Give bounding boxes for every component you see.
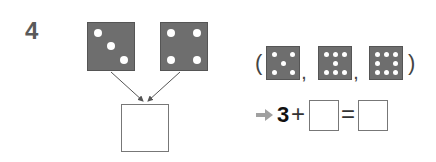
die-dot: [342, 52, 347, 57]
open-parenthesis: (: [255, 50, 262, 76]
die-dot: [375, 61, 380, 66]
second-addend-box[interactable]: [309, 100, 339, 131]
equals-sign: =: [341, 100, 355, 128]
choice-die-eight[interactable]: [369, 46, 403, 80]
converging-arrows-icon: [0, 0, 436, 162]
separator: ,: [302, 66, 306, 82]
die-dot: [272, 70, 277, 75]
die-dot: [375, 70, 380, 75]
sum-answer-box[interactable]: [121, 104, 169, 152]
die-dot: [393, 70, 398, 75]
die-dot: [375, 52, 380, 57]
close-parenthesis: ): [408, 50, 415, 76]
die-dot: [333, 61, 338, 66]
choice-die-seven[interactable]: [318, 46, 352, 80]
right-arrow-icon: [256, 109, 274, 121]
die-dot: [333, 52, 338, 57]
die-dot: [324, 70, 329, 75]
die-dot: [324, 52, 329, 57]
choice-die-five[interactable]: [266, 46, 300, 80]
die-dot: [393, 61, 398, 66]
sum-box[interactable]: [358, 100, 388, 131]
die-dot: [290, 52, 295, 57]
plus-sign: +: [291, 100, 305, 128]
die-dot: [281, 61, 286, 66]
die-dot: [333, 70, 338, 75]
die-dot: [384, 52, 389, 57]
first-addend: 3: [277, 102, 289, 128]
die-dot: [384, 70, 389, 75]
die-dot: [290, 70, 295, 75]
die-dot: [342, 70, 347, 75]
die-dot: [272, 52, 277, 57]
die-dot: [393, 52, 398, 57]
separator: ,: [354, 66, 358, 82]
